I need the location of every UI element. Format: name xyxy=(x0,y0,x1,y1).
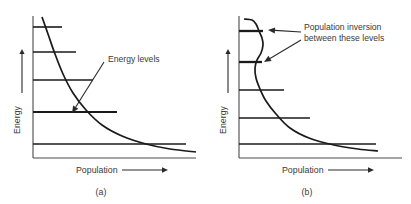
population-axis-arrow-head xyxy=(162,167,168,173)
energy-axis-arrow-head xyxy=(225,49,230,54)
panel-a-annotation-arrow xyxy=(72,62,104,113)
panel-b-diagram: Population inversion between these level… xyxy=(206,0,411,204)
panel-a-population-axis-arrow xyxy=(122,167,168,173)
inversion-pointer-lower-shaft xyxy=(270,40,301,58)
panel-a-energy-axis-arrow xyxy=(19,49,24,93)
panel-a-energy-levels xyxy=(33,27,186,144)
panel-b: Population inversion between these level… xyxy=(206,0,411,204)
panel-a-annotation-label: Energy levels xyxy=(108,54,160,64)
panel-a: Energy levels Energy Population (a) xyxy=(0,0,205,204)
panel-b-y-axis-label: Energy xyxy=(218,105,228,133)
energy-level-population-figure: Energy levels Energy Population (a) Popu… xyxy=(0,0,411,204)
inversion-pointer-lower-head xyxy=(264,56,272,62)
panel-b-annotation-label-line2: between these levels xyxy=(304,33,384,43)
panel-b-energy-axis-arrow xyxy=(225,49,230,93)
energy-levels-pointer-shaft xyxy=(76,62,104,107)
panel-b-caption: (b) xyxy=(302,187,313,197)
panel-a-distribution-curve xyxy=(42,17,196,152)
inversion-pointer-upper-shaft xyxy=(275,30,301,32)
energy-axis-arrow-head xyxy=(19,49,24,54)
panel-a-y-axis-label: Energy xyxy=(12,105,22,133)
panel-a-x-axis-label: Population xyxy=(76,165,118,175)
inversion-pointer-upper-head xyxy=(268,27,275,33)
panel-a-diagram: Energy levels Energy Population (a) xyxy=(0,0,205,204)
panel-a-caption: (a) xyxy=(96,187,107,197)
panel-b-annotation-label-line1: Population inversion xyxy=(304,22,382,32)
population-axis-arrow-head xyxy=(368,167,374,173)
panel-a-axes xyxy=(33,16,196,158)
panel-b-population-axis-arrow xyxy=(328,167,374,173)
panel-b-x-axis-label: Population xyxy=(282,165,324,175)
panel-b-annotation-arrows xyxy=(264,27,301,62)
